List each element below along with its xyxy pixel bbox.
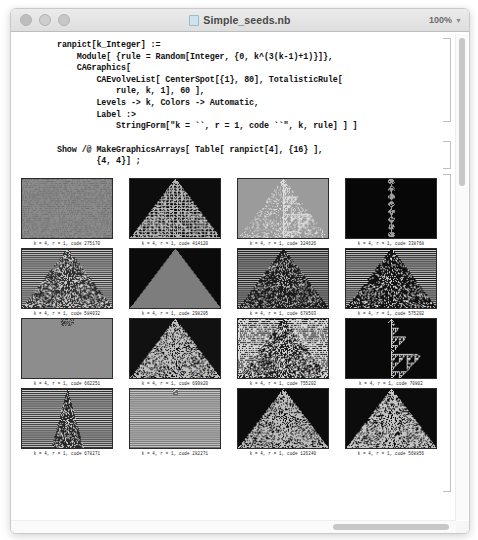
graphics-grid-row: k = 4, r = 1, code 275170k = 4, r = 1, c… xyxy=(15,178,455,246)
ca-image-frame[interactable] xyxy=(21,388,113,449)
ca-caption: k = 4, r = 1, code 662251 xyxy=(34,382,101,387)
ca-image xyxy=(346,179,436,238)
ca-graphic-cell[interactable]: k = 4, r = 1, code 584032 xyxy=(15,248,119,316)
ca-graphic-cell[interactable]: k = 4, r = 1, code 568856 xyxy=(339,388,443,456)
graphics-grid-row: k = 4, r = 1, code 584032k = 4, r = 1, c… xyxy=(15,248,455,316)
ca-caption: k = 4, r = 1, code 298205 xyxy=(142,312,209,317)
ca-image-frame[interactable] xyxy=(21,318,113,379)
ca-image-frame[interactable] xyxy=(237,318,329,379)
cell-bracket-3[interactable] xyxy=(443,174,451,492)
zoom-level-control[interactable]: 100% ▼ xyxy=(429,15,462,25)
vertical-scrollbar-thumb[interactable] xyxy=(459,38,465,186)
ca-image xyxy=(238,249,328,308)
ca-caption: k = 4, r = 1, code 699820 xyxy=(142,382,209,387)
chevron-down-icon: ▼ xyxy=(455,17,462,24)
ca-image xyxy=(346,319,436,378)
ca-image xyxy=(238,319,328,378)
ca-image-frame[interactable] xyxy=(21,178,113,239)
ca-caption: k = 4, r = 1, code 414120 xyxy=(142,242,209,247)
graphics-grid-row: k = 4, r = 1, code 678271k = 4, r = 1, c… xyxy=(15,388,455,456)
window-title-bar[interactable]: Simple_seeds.nb 100% ▼ xyxy=(11,9,469,32)
ca-graphic-cell[interactable]: k = 4, r = 1, code 575202 xyxy=(339,248,443,316)
horizontal-scrollbar[interactable] xyxy=(11,520,456,533)
ca-graphic-cell[interactable]: k = 4, r = 1, code 755202 xyxy=(231,318,335,386)
ca-caption: k = 4, r = 1, code 678503 xyxy=(250,312,317,317)
notebook-body: ranpict[k_Integer] := Module[ {rule = Ra… xyxy=(11,32,469,533)
ca-image-frame[interactable] xyxy=(345,248,437,309)
ca-image xyxy=(22,389,112,448)
scrollbar-corner xyxy=(456,521,469,533)
ca-graphic-cell[interactable]: k = 4, r = 1, code 70802 xyxy=(339,318,443,386)
horizontal-scrollbar-thumb[interactable] xyxy=(333,524,449,530)
ca-image xyxy=(346,249,436,308)
ca-caption: k = 4, r = 1, code 678271 xyxy=(34,452,101,457)
ca-image-frame[interactable] xyxy=(129,178,221,239)
ca-image xyxy=(238,389,328,448)
ca-caption: k = 4, r = 1, code 575202 xyxy=(358,312,425,317)
ca-caption: k = 4, r = 1, code 275170 xyxy=(34,242,101,247)
ca-graphic-cell[interactable]: k = 4, r = 1, code 282271 xyxy=(123,388,227,456)
ca-image xyxy=(130,319,220,378)
ca-image-frame[interactable] xyxy=(21,248,113,309)
ca-image xyxy=(130,179,220,238)
ca-image-frame[interactable] xyxy=(237,178,329,239)
minimize-button[interactable] xyxy=(39,14,51,26)
notebook-content: ranpict[k_Integer] := Module[ {rule = Ra… xyxy=(11,32,455,520)
ca-graphic-cell[interactable]: k = 4, r = 1, code 414120 xyxy=(123,178,227,246)
maximize-button[interactable] xyxy=(58,14,70,26)
ca-caption: k = 4, r = 1, code 126240 xyxy=(250,452,317,457)
ca-image-frame[interactable] xyxy=(237,248,329,309)
ca-image xyxy=(238,179,328,238)
notebook-window: Simple_seeds.nb 100% ▼ ranpict[k_Integer… xyxy=(10,8,470,534)
traffic-lights xyxy=(20,14,70,26)
ca-image-frame[interactable] xyxy=(129,318,221,379)
ca-graphic-cell[interactable]: k = 4, r = 1, code 678503 xyxy=(231,248,335,316)
code-text-2: Show /@ MakeGraphicsArrays[ Table[ ranpi… xyxy=(57,145,455,168)
ca-image xyxy=(22,179,112,238)
ca-graphic-cell[interactable]: k = 4, r = 1, code 126240 xyxy=(231,388,335,456)
ca-graphic-cell[interactable]: k = 4, r = 1, code 275170 xyxy=(15,178,119,246)
close-button[interactable] xyxy=(20,14,32,26)
ca-image xyxy=(130,249,220,308)
ca-graphic-cell[interactable]: k = 4, r = 1, code 678271 xyxy=(15,388,119,456)
ca-caption: k = 4, r = 1, code 568856 xyxy=(358,452,425,457)
ca-caption: k = 4, r = 1, code 324626 xyxy=(250,242,317,247)
window-title: Simple_seeds.nb xyxy=(11,14,469,26)
ca-image-frame[interactable] xyxy=(129,248,221,309)
cell-bracket-1[interactable] xyxy=(443,38,451,122)
ca-image xyxy=(130,389,220,448)
ca-caption: k = 4, r = 1, code 338768 xyxy=(358,242,425,247)
window-title-text: Simple_seeds.nb xyxy=(203,14,290,26)
code-cell-input-2[interactable]: Show /@ MakeGraphicsArrays[ Table[ ranpi… xyxy=(11,137,455,172)
ca-graphic-cell[interactable]: k = 4, r = 1, code 662251 xyxy=(15,318,119,386)
ca-graphic-cell[interactable]: k = 4, r = 1, code 298205 xyxy=(123,248,227,316)
ca-image-frame[interactable] xyxy=(129,388,221,449)
code-cell-input-1[interactable]: ranpict[k_Integer] := Module[ {rule = Ra… xyxy=(11,32,455,137)
document-icon xyxy=(189,15,199,26)
ca-image-frame[interactable] xyxy=(237,388,329,449)
ca-image-frame[interactable] xyxy=(345,388,437,449)
graphics-grid-row: k = 4, r = 1, code 662251k = 4, r = 1, c… xyxy=(15,318,455,386)
ca-image-frame[interactable] xyxy=(345,318,437,379)
graphics-output-grid: k = 4, r = 1, code 275170k = 4, r = 1, c… xyxy=(11,172,455,456)
ca-caption: k = 4, r = 1, code 755202 xyxy=(250,382,317,387)
ca-image xyxy=(22,319,112,378)
ca-graphic-cell[interactable]: k = 4, r = 1, code 338768 xyxy=(339,178,443,246)
ca-caption: k = 4, r = 1, code 70802 xyxy=(359,382,423,387)
ca-caption: k = 4, r = 1, code 282271 xyxy=(142,452,209,457)
ca-image-frame[interactable] xyxy=(345,178,437,239)
ca-graphic-cell[interactable]: k = 4, r = 1, code 699820 xyxy=(123,318,227,386)
ca-image xyxy=(22,249,112,308)
vertical-scrollbar[interactable] xyxy=(455,34,468,520)
ca-image xyxy=(346,389,436,448)
ca-caption: k = 4, r = 1, code 584032 xyxy=(34,312,101,317)
ca-graphic-cell[interactable]: k = 4, r = 1, code 324626 xyxy=(231,178,335,246)
zoom-level-label: 100% xyxy=(429,15,452,25)
code-text-1: ranpict[k_Integer] := Module[ {rule = Ra… xyxy=(57,40,455,133)
cell-bracket-2[interactable] xyxy=(443,141,451,169)
